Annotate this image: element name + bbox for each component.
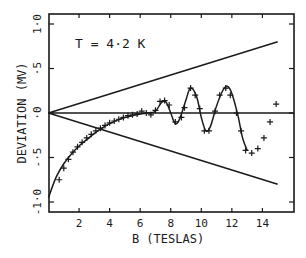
x-axis-title: B (TESLAS) (132, 232, 204, 246)
plus-marker-icon (88, 131, 94, 137)
y-tick-label: -1·0 (31, 189, 44, 216)
upper-envelope (49, 42, 278, 113)
plus-marker-icon (206, 128, 212, 134)
x-tick-label: 2 (76, 217, 83, 230)
plus-marker-icon (238, 128, 244, 134)
x-tick-label: 4 (106, 217, 113, 230)
x-tick-label: 10 (195, 217, 208, 230)
plus-marker-icon (267, 119, 273, 125)
y-tick-label: -·5 (31, 148, 44, 168)
axis-ticks: 24681012141·0·5·0-·5-1·0 (31, 14, 294, 230)
plus-marker-icon (243, 147, 249, 153)
x-tick-label: 8 (167, 217, 174, 230)
x-tick-label: 12 (225, 217, 238, 230)
fit-curve (49, 86, 248, 197)
y-axis-title: DEVIATION (MV) (15, 62, 29, 163)
plus-marker-icon (255, 146, 261, 152)
lower-envelope (49, 113, 278, 184)
plus-marker-icon (261, 135, 267, 141)
plus-marker-icon (197, 106, 203, 112)
y-tick-label: 1·0 (31, 14, 44, 34)
plus-marker-icon (84, 135, 90, 141)
plus-marker-icon (273, 101, 279, 107)
plus-marker-icon (249, 150, 255, 156)
temperature-annotation: T = 4·2 K (75, 36, 146, 51)
plus-marker-icon (56, 177, 62, 183)
chart: 24681012141·0·5·0-·5-1·0 T = 4·2 K B (TE… (0, 0, 306, 258)
y-tick-label: ·0 (31, 106, 44, 119)
series-lines (49, 42, 295, 198)
x-tick-label: 6 (137, 217, 144, 230)
x-tick-label: 14 (256, 217, 270, 230)
plus-marker-icon (157, 98, 163, 104)
y-tick-label: ·5 (31, 62, 44, 75)
